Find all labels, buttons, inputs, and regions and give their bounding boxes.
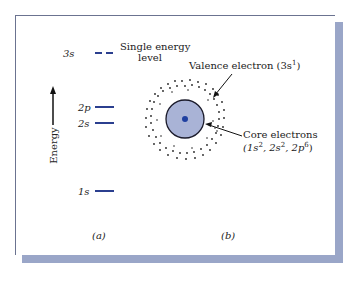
core-arrow-icon [205,122,242,136]
single-level-note: Single energylevel [120,41,180,63]
caption-a: (a) [92,230,106,241]
core-electrons-config: (1s2, 2s2, 2p6) [243,142,313,153]
caption-b: (b) [221,230,235,241]
level-2s-label: 2s [78,118,90,129]
energy-arrow-icon [50,86,56,125]
core-electrons-label: Core electrons [243,129,318,140]
level-2p-label: 2p [78,102,91,113]
nucleus [182,116,188,122]
level-1s-label: 1s [78,186,90,197]
valence-electron-label: Valence electron (3s1) [189,60,300,71]
energy-axis-label: Energy [48,122,59,170]
valence-arrow-icon [213,74,232,98]
level-3s-label: 3s [63,48,75,59]
